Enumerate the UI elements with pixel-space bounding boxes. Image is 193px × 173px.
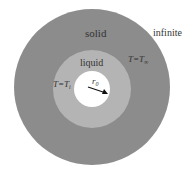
phase-change-diagram: solid infinite liquid T=T∞ T=Ti r0 (0, 0, 193, 173)
inner-temp-label: T=Ti (53, 79, 71, 90)
solid-label: solid (85, 27, 107, 39)
infinite-label: infinite (153, 27, 182, 38)
liquid-label: liquid (80, 57, 103, 68)
